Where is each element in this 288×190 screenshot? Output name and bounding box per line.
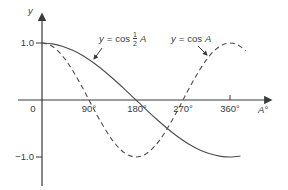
solid-curve-label: y = cos 1 2 A xyxy=(99,31,146,47)
solid-label-numerator: 1 xyxy=(133,31,137,38)
cosine-curves-graph: y A° 1.0 −1.0 0 90° 180° 270° 360° y = c… xyxy=(0,0,288,190)
dashed-label-var: y xyxy=(171,33,176,44)
y-axis-label: y xyxy=(28,5,33,16)
solid-label-func: cos xyxy=(115,33,130,44)
x-tick-label-270: 270° xyxy=(166,103,200,114)
x-tick-label-90: 90° xyxy=(72,103,106,114)
plot-canvas xyxy=(0,0,288,190)
solid-label-arrow-icon xyxy=(94,48,102,59)
solid-label-denominator: 2 xyxy=(133,38,137,47)
solid-label-var: y xyxy=(99,33,104,44)
dashed-curve-label: y = cos A xyxy=(171,33,211,44)
dashed-label-func: cos xyxy=(187,33,202,44)
solid-label-fraction: 1 2 xyxy=(133,31,137,47)
dashed-label-arg: A xyxy=(205,33,211,44)
x-tick-label-360: 360° xyxy=(213,103,247,114)
solid-label-equals: = xyxy=(107,33,113,44)
y-tick-label-1: 1.0 xyxy=(4,37,34,48)
y-tick-label-neg1: −1.0 xyxy=(4,151,34,162)
dashed-label-equals: = xyxy=(179,33,185,44)
x-tick-label-180: 180° xyxy=(120,103,154,114)
solid-label-arg: A xyxy=(140,33,146,44)
x-axis-label: A° xyxy=(258,104,268,115)
dashed-label-arrow-icon xyxy=(198,46,207,55)
x-tick-label-0: 0 xyxy=(16,103,50,114)
